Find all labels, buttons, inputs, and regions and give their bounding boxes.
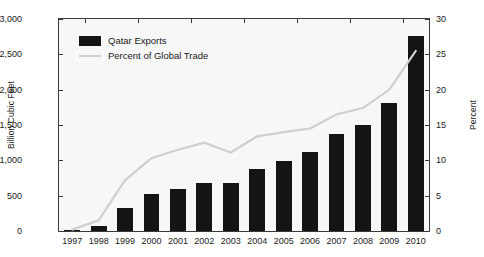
y-axis-left-tick-label: 500	[0, 191, 22, 201]
y-axis-left-tick-label: 2,000	[0, 85, 22, 95]
y-axis-left-tick-label: 0	[0, 226, 22, 236]
y-axis-right-tick-mark	[425, 19, 430, 20]
y-axis-left-tick-label: 1,000	[0, 155, 22, 165]
y-axis-right-tick-label: 30	[436, 14, 466, 24]
x-axis-tick-label-2010: 2010	[406, 236, 426, 246]
legend-item-qatar-exports: Qatar Exports	[79, 33, 208, 48]
y-axis-right-tick-mark	[425, 196, 430, 197]
y-axis-right-tick-label: 25	[436, 49, 466, 59]
y-axis-right-tick-label: 5	[436, 191, 466, 201]
top-axis-tick-mark	[191, 18, 192, 23]
y-axis-left-tick-mark	[58, 90, 63, 91]
y-axis-right-tick-label: 0	[436, 226, 466, 236]
y-axis-left-tick-mark	[58, 231, 63, 232]
top-axis-tick-mark	[297, 18, 298, 23]
x-axis-tick-label-2004: 2004	[247, 236, 267, 246]
y-axis-right-tick-mark	[425, 90, 430, 91]
x-axis-tick-label-2002: 2002	[194, 236, 214, 246]
y-axis-left-tick-mark	[58, 125, 63, 126]
y-axis-left-tick-label: 1,500	[0, 120, 22, 130]
x-axis-tick-label-2003: 2003	[221, 236, 241, 246]
y-axis-left-tick-mark	[58, 54, 63, 55]
top-axis-tick-mark	[350, 18, 351, 23]
x-axis-tick-label-1998: 1998	[89, 236, 109, 246]
top-axis-tick-mark	[85, 18, 86, 23]
x-axis-tick-label-2005: 2005	[274, 236, 294, 246]
y-axis-right-tick-mark	[425, 54, 430, 55]
y-axis-right-title: Percent	[468, 40, 478, 190]
x-axis-tick-label-2001: 2001	[168, 236, 188, 246]
plot-area: Qatar Exports Percent of Global Trade	[58, 18, 430, 232]
y-axis-left-tick-label: 3,000	[0, 14, 22, 24]
y-axis-left-title: Billion Cubic Feet	[6, 40, 16, 190]
y-axis-left-tick-mark	[58, 196, 63, 197]
y-axis-right-tick-label: 10	[436, 155, 466, 165]
y-axis-left-tick-mark	[58, 19, 63, 20]
legend-label-percent-of-global-trade: Percent of Global Trade	[108, 50, 208, 61]
x-axis-tick-label-2008: 2008	[353, 236, 373, 246]
x-axis-tick-label-2006: 2006	[300, 236, 320, 246]
top-axis-tick-mark	[244, 18, 245, 23]
x-axis-tick-label-1999: 1999	[115, 236, 135, 246]
y-axis-right-tick-label: 15	[436, 120, 466, 130]
legend-item-percent-of-global-trade: Percent of Global Trade	[79, 48, 208, 63]
chart-legend: Qatar Exports Percent of Global Trade	[79, 33, 208, 63]
x-axis-tick-label-2009: 2009	[379, 236, 399, 246]
percent-line-path	[72, 51, 416, 230]
chart-figure: Qatar Exports Percent of Global Trade Bi…	[0, 0, 484, 257]
y-axis-left-tick-label: 2,500	[0, 49, 22, 59]
legend-line-swatch-icon	[79, 55, 101, 57]
y-axis-right-tick-label: 20	[436, 85, 466, 95]
legend-label-qatar-exports: Qatar Exports	[108, 35, 167, 46]
x-axis-tick-label-1997: 1997	[62, 236, 82, 246]
x-axis-tick-label-2000: 2000	[141, 236, 161, 246]
top-axis-tick-mark	[138, 18, 139, 23]
y-axis-right-tick-mark	[425, 125, 430, 126]
y-axis-right-tick-mark	[425, 160, 430, 161]
legend-bar-swatch-icon	[79, 36, 101, 46]
top-axis-tick-mark	[403, 18, 404, 23]
y-axis-left-tick-mark	[58, 160, 63, 161]
x-axis-tick-label-2007: 2007	[326, 236, 346, 246]
y-axis-right-tick-mark	[425, 231, 430, 232]
